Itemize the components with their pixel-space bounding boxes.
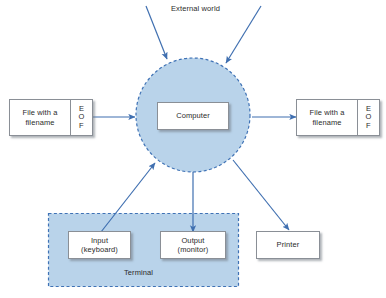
diagram-canvas: External world File with a filename E O …	[0, 0, 386, 298]
file-output-eof-cell: E O F	[357, 100, 379, 135]
printer-label: Printer	[277, 240, 300, 249]
file-output-node[interactable]: File with a filename E O F	[296, 99, 380, 136]
file-output-eof-label: E O F	[365, 105, 371, 129]
input-keyboard-label: Input (keyboard)	[81, 236, 118, 255]
file-input-eof-label: E O F	[78, 105, 84, 129]
printer-node[interactable]: Printer	[256, 231, 320, 259]
file-input-eof-cell: E O F	[70, 100, 92, 135]
computer-node[interactable]: Computer	[157, 102, 229, 130]
file-input-node[interactable]: File with a filename E O F	[9, 99, 93, 136]
edge-external-world-left	[146, 6, 167, 59]
edge-external-world-right	[226, 6, 261, 63]
terminal-label: Terminal	[124, 268, 153, 277]
file-input-name: File with a filename	[10, 100, 70, 135]
output-monitor-node[interactable]: Output (monitor)	[160, 231, 226, 259]
computer-node-label: Computer	[176, 111, 210, 120]
external-world-label: External world	[171, 4, 220, 13]
edge-computer-to-printer	[233, 160, 289, 230]
output-monitor-label: Output (monitor)	[178, 236, 209, 255]
input-keyboard-node[interactable]: Input (keyboard)	[68, 231, 131, 259]
file-output-name: File with a filename	[297, 100, 357, 135]
